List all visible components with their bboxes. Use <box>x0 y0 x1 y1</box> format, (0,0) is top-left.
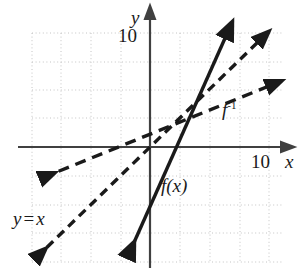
x-axis-tick-10: 10 <box>251 152 270 171</box>
inverse-function-label: f-1 <box>222 100 236 119</box>
line-y-equals-x <box>36 41 259 258</box>
identity-line-label: y=x <box>13 209 45 228</box>
x-axis-label: x <box>285 152 293 171</box>
identity-line-x: x <box>36 208 44 229</box>
graph-canvas <box>0 0 307 274</box>
equals-sign: = <box>21 208 36 229</box>
function-label: f(x) <box>161 176 187 195</box>
graph-figure: y 10 10 x f(x) f-1 y=x <box>0 0 307 274</box>
y-axis-tick-10: 10 <box>118 26 137 45</box>
inverse-function-exponent: -1 <box>227 99 236 111</box>
